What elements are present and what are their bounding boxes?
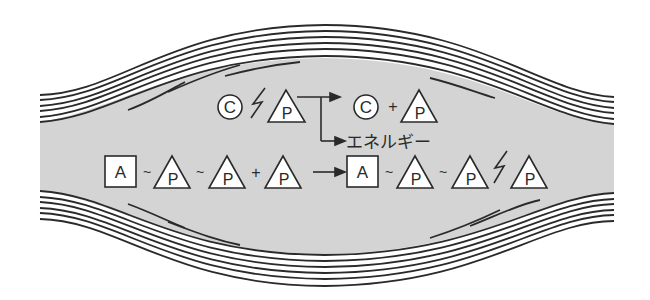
svg-text:P: P [411,171,422,188]
svg-text:A: A [115,163,127,182]
creatine-circle-product: C [354,95,378,119]
svg-text:P: P [279,171,290,188]
svg-text:P: P [223,171,234,188]
bond-tilde: ~ [439,164,447,180]
svg-text:P: P [415,105,426,122]
bond-tilde: ~ [385,164,393,180]
plus-sign: + [388,98,397,115]
svg-text:C: C [224,98,236,117]
adenosine-box: A [105,156,136,187]
svg-text:P: P [282,105,293,122]
plus-sign: + [251,164,260,181]
adenosine-box-product: A [347,156,378,187]
muscle-energy-diagram: C P C + P エネルギー [0,0,650,300]
svg-text:P: P [466,171,477,188]
svg-text:A: A [357,163,369,182]
energy-label: エネルギー [346,132,431,152]
bond-tilde: ~ [143,164,151,180]
svg-text:P: P [525,171,536,188]
creatine-circle: C [218,95,242,119]
bond-tilde: ~ [196,164,204,180]
svg-text:P: P [168,171,179,188]
svg-text:C: C [360,98,372,117]
